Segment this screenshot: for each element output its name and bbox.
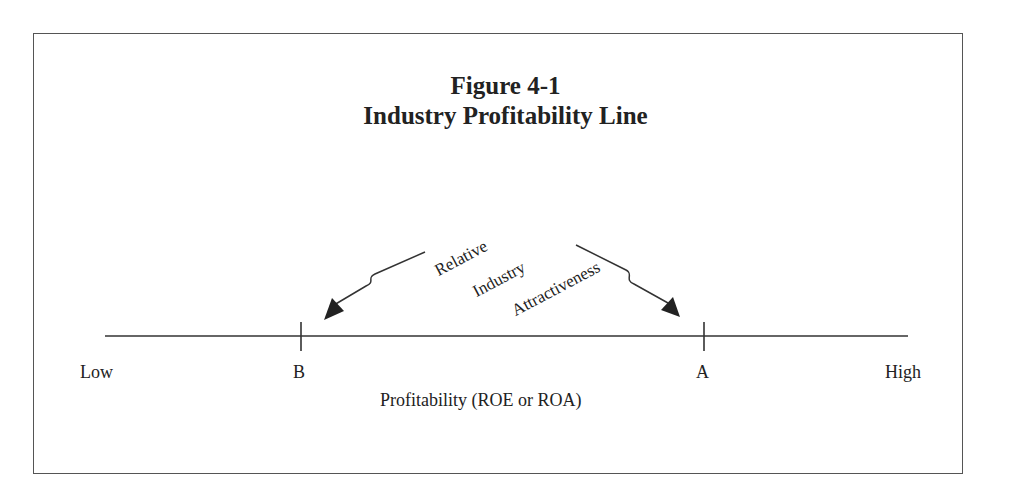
axis-caption: Profitability (ROE or ROA) [380,391,581,409]
high-label: High [885,363,921,381]
low-label: Low [80,363,113,381]
point-b-label: B [293,363,305,381]
point-a-label: A [696,363,709,381]
arrow-to-b [334,252,425,305]
profitability-line-diagram [0,0,1011,496]
